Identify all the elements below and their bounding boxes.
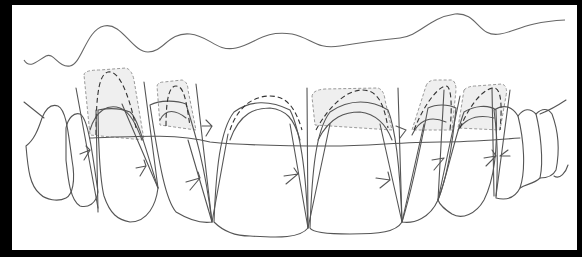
gingival-line	[24, 14, 565, 66]
tooth-right-6	[518, 110, 542, 188]
axis-line-6	[188, 134, 228, 222]
axis-line-9	[398, 88, 402, 222]
arrow-5	[284, 168, 298, 184]
arrow-6	[376, 172, 390, 188]
axis-line-5	[196, 84, 212, 222]
shaded-zone-4	[412, 80, 456, 130]
arrow-4	[202, 120, 212, 136]
teeth-diagram	[0, 0, 582, 257]
shaded-zone-2	[157, 80, 196, 130]
shaded-zone-1	[84, 68, 144, 140]
arrow-7	[396, 126, 406, 138]
arrow-2	[136, 160, 146, 176]
arrow-8	[432, 158, 444, 170]
